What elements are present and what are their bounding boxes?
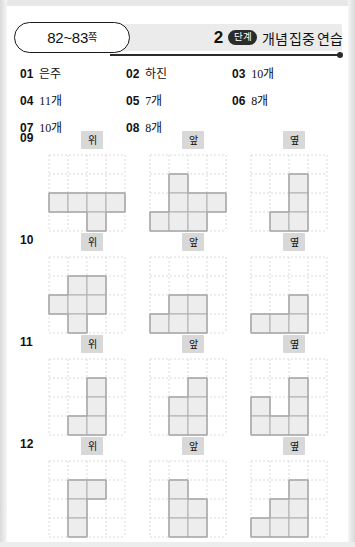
view-front: 앞 — [149, 233, 237, 334]
answer-item-03: 0310개 — [232, 64, 338, 82]
shape-grid — [149, 460, 237, 538]
answer-item-02: 02하진 — [126, 64, 232, 82]
answer-value: 하진 — [145, 64, 167, 82]
view-front: 앞 — [149, 335, 237, 436]
shape-grid — [48, 256, 136, 334]
page-edge-right — [348, 0, 355, 547]
answer-item-06: 068개 — [232, 91, 338, 109]
answer-row: 0411개057개068개 — [20, 91, 338, 109]
section-title-part1: 개념 — [262, 31, 287, 47]
answer-value: 7개 — [145, 91, 162, 109]
view-label-top: 위 — [81, 335, 103, 353]
answer-value: 11개 — [39, 91, 62, 109]
view-label-front: 앞 — [182, 335, 204, 353]
page-top-band — [0, 0, 355, 6]
page-range-suffix: 쪽 — [88, 32, 97, 43]
shape-grid — [250, 256, 338, 334]
section-title-part2: 집중 연습 — [289, 31, 342, 47]
page-range-badge: 82~83쪽 — [14, 22, 130, 53]
page-bottom-band — [0, 542, 355, 547]
shape-grid — [250, 358, 338, 436]
view-group: 위앞옆 — [48, 233, 338, 334]
answer-number: 02 — [126, 67, 139, 81]
view-front: 앞 — [149, 131, 237, 232]
section-title: 개념집중 연습 — [262, 28, 342, 48]
answer-number: 06 — [232, 94, 245, 108]
view-label-side: 옆 — [283, 233, 305, 251]
page-range-text: 82~83쪽 — [47, 29, 96, 46]
view-top: 위 — [48, 131, 136, 232]
answer-item-05: 057개 — [126, 91, 232, 109]
answer-value: 10개 — [251, 64, 274, 82]
view-side: 옆 — [250, 335, 338, 436]
answer-key-page: 82~83쪽 2 단계 개념집중 연습 01은주02하진0310개0411개05… — [0, 0, 355, 547]
view-label-front: 앞 — [182, 131, 204, 149]
shape-grid — [48, 154, 136, 232]
page-header: 82~83쪽 2 단계 개념집중 연습 — [14, 22, 342, 56]
shape-grid — [149, 154, 237, 232]
answer-number: 04 — [20, 94, 33, 108]
answer-item-04: 0411개 — [20, 91, 126, 109]
answer-row: 01은주02하진0310개 — [20, 64, 338, 82]
answer-number: 05 — [126, 94, 139, 108]
view-label-side: 옆 — [283, 437, 305, 455]
shape-grid — [250, 154, 338, 232]
shape-grid — [149, 358, 237, 436]
view-label-side: 옆 — [283, 131, 305, 149]
answer-item-01: 01은주 — [20, 64, 126, 82]
problem-number: 10 — [20, 233, 33, 247]
view-label-top: 위 — [81, 437, 103, 455]
view-label-top: 위 — [81, 233, 103, 251]
shape-grid — [149, 256, 237, 334]
shape-grid — [48, 460, 136, 538]
view-label-front: 앞 — [182, 437, 204, 455]
answer-value: 은주 — [39, 64, 61, 82]
view-top: 위 — [48, 233, 136, 334]
problem-number: 12 — [20, 437, 33, 451]
view-label-side: 옆 — [283, 335, 305, 353]
step-badge: 단계 — [228, 30, 257, 45]
view-front: 앞 — [149, 437, 237, 538]
header-underline — [110, 54, 342, 56]
view-group: 위앞옆 — [48, 335, 338, 436]
view-top: 위 — [48, 437, 136, 538]
problem-number: 11 — [20, 335, 33, 349]
header-step-group: 2 단계 개념집중 연습 — [214, 25, 342, 50]
view-label-top: 위 — [81, 131, 103, 149]
shape-grid — [48, 358, 136, 436]
view-side: 옆 — [250, 437, 338, 538]
page-edge-left — [0, 0, 7, 547]
view-group: 위앞옆 — [48, 437, 338, 538]
view-label-front: 앞 — [182, 233, 204, 251]
view-side: 옆 — [250, 233, 338, 334]
problem-number: 09 — [20, 131, 33, 145]
view-top: 위 — [48, 335, 136, 436]
view-side: 옆 — [250, 131, 338, 232]
step-number: 2 — [214, 28, 223, 48]
answer-number: 03 — [232, 67, 245, 81]
shape-grid — [250, 460, 338, 538]
view-group: 위앞옆 — [48, 131, 338, 232]
answer-number: 01 — [20, 67, 33, 81]
answer-value: 8개 — [251, 91, 268, 109]
